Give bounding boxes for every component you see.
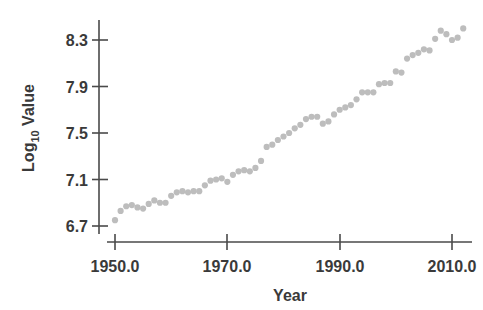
data-point <box>292 125 298 131</box>
data-point <box>275 137 281 143</box>
x-tick-label-2010: 2010.0 <box>428 258 477 275</box>
data-point <box>112 217 118 223</box>
chart-figure: 6.7 7.1 7.5 7.9 8.3 1950.0 1970.0 1990.0… <box>0 0 483 310</box>
data-point <box>230 172 236 178</box>
data-point <box>219 175 225 181</box>
y-tick-label-7-1: 7.1 <box>66 172 88 189</box>
data-point <box>185 189 191 195</box>
data-point <box>213 176 219 182</box>
data-point <box>258 158 264 164</box>
y-axis-title-tail: Value <box>20 84 37 130</box>
data-point <box>235 168 241 174</box>
data-point <box>118 208 124 214</box>
data-point <box>191 188 197 194</box>
y-axis-title: Log10 Value <box>20 84 41 172</box>
data-point <box>337 107 343 113</box>
data-point <box>202 182 208 188</box>
data-point <box>179 188 185 194</box>
data-point <box>325 118 331 124</box>
data-point <box>432 36 438 42</box>
data-point <box>123 203 129 209</box>
data-point <box>140 205 146 211</box>
data-point <box>387 80 393 86</box>
data-point <box>353 96 359 102</box>
data-point <box>247 168 253 174</box>
data-point <box>314 114 320 120</box>
data-point <box>382 80 388 86</box>
data-point <box>174 189 180 195</box>
data-point <box>410 52 416 58</box>
data-point <box>134 204 140 210</box>
data-point <box>455 35 461 41</box>
data-point <box>264 144 270 150</box>
data-point <box>151 197 157 203</box>
scatter-plot: 6.7 7.1 7.5 7.9 8.3 1950.0 1970.0 1990.0… <box>0 0 483 310</box>
y-tick-label-8-3: 8.3 <box>66 32 88 49</box>
data-point <box>415 50 421 56</box>
data-point <box>129 202 135 208</box>
y-tick-label-7-5: 7.5 <box>66 125 88 142</box>
data-point <box>320 121 326 127</box>
data-point <box>421 46 427 52</box>
y-tick-marks <box>92 40 108 226</box>
data-point <box>308 114 314 120</box>
data-point <box>376 81 382 87</box>
data-point <box>224 179 230 185</box>
data-point <box>449 37 455 43</box>
x-tick-label-1970: 1970.0 <box>203 258 252 275</box>
x-tick-label-1950: 1950.0 <box>91 258 140 275</box>
data-point <box>365 89 371 95</box>
data-point <box>393 68 399 74</box>
data-point <box>342 104 348 110</box>
data-point <box>443 31 449 37</box>
data-point <box>168 193 174 199</box>
data-point <box>331 111 337 117</box>
y-tick-label-6-7: 6.7 <box>66 218 88 235</box>
x-tick-label-1990: 1990.0 <box>316 258 365 275</box>
data-point <box>404 56 410 62</box>
data-point <box>398 69 404 75</box>
data-point <box>157 200 163 206</box>
data-points-group <box>112 25 466 223</box>
data-point <box>426 47 432 53</box>
data-point <box>297 122 303 128</box>
data-point <box>207 178 213 184</box>
data-point <box>280 133 286 139</box>
svg-text:Log10 Value: Log10 Value <box>20 84 41 172</box>
data-point <box>269 142 275 148</box>
y-axis-title-subscript: 10 <box>29 130 41 142</box>
x-axis-title: Year <box>273 287 307 304</box>
data-point <box>162 200 168 206</box>
data-point <box>252 165 258 171</box>
data-point <box>146 201 152 207</box>
data-point <box>370 89 376 95</box>
data-point <box>460 25 466 31</box>
y-tick-label-7-9: 7.9 <box>66 79 88 96</box>
data-point <box>438 28 444 34</box>
data-point <box>241 167 247 173</box>
data-point <box>196 188 202 194</box>
data-point <box>348 102 354 108</box>
data-point <box>286 130 292 136</box>
data-point <box>359 89 365 95</box>
y-axis-title-base: Log <box>20 143 37 172</box>
data-point <box>303 116 309 122</box>
